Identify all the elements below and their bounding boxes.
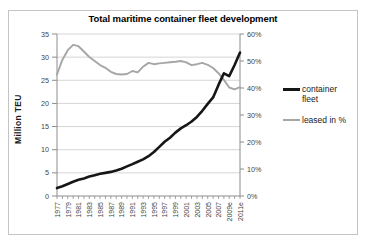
x-axis-tick-label: 1995: [151, 202, 158, 218]
x-axis-tick-label: 1989: [118, 202, 125, 218]
container-fleet-line-swatch: [283, 88, 300, 91]
y2-axis-tick-label: 0%: [247, 192, 258, 201]
y2-axis-tick-label: 30%: [247, 111, 262, 120]
chart-canvas: Total maritime container fleet developme…: [0, 0, 368, 245]
y-axis-tick-label: 35: [41, 30, 49, 39]
y2-axis-tick-label: 50%: [247, 57, 262, 66]
y2-axis-tick-label: 10%: [247, 165, 262, 174]
legend-item-container-fleet: container fleet: [283, 84, 353, 104]
x-axis-tick-label: 1993: [140, 202, 147, 218]
y-axis-tick-label: 30: [41, 53, 49, 62]
y-axis-tick-label: 5: [45, 168, 49, 177]
x-axis-tick-label: 1991: [129, 202, 136, 218]
legend-item-leased-in-pct: leased in %: [283, 115, 353, 125]
x-axis-tick-label: 1999: [172, 202, 179, 218]
x-axis-tick-label: 1981: [75, 202, 82, 218]
x-axis-tick-label: 1985: [97, 202, 104, 218]
x-axis-tick-label: 1987: [108, 202, 115, 218]
y-axis-tick-label: 0: [45, 192, 49, 201]
y-axis-tick-label: 15: [41, 122, 49, 131]
y-axis-tick-label: 20: [41, 99, 49, 108]
series-line-container-fleet: [57, 53, 240, 189]
legend-label-leased-in-pct: leased in %: [302, 115, 346, 125]
x-axis-tick-label: 2009e: [226, 202, 233, 222]
legend-label-container-fleet: container fleet: [302, 84, 352, 104]
x-axis-tick-label: 2005: [205, 202, 212, 218]
x-axis-tick-label: 2007: [215, 202, 222, 218]
x-axis-tick-label: 2011e: [237, 202, 244, 221]
x-axis-tick-label: 2003: [194, 202, 201, 218]
x-axis-tick-label: 1979: [65, 202, 72, 218]
x-axis-tick-label: 1983: [86, 202, 93, 218]
y-axis-tick-label: 25: [41, 76, 49, 85]
legend: container fleet leased in %: [283, 84, 353, 126]
y2-axis-tick-label: 40%: [247, 84, 262, 93]
leased-in-pct-line-swatch: [283, 119, 300, 121]
y-axis-tick-label: 10: [41, 145, 49, 154]
x-axis-tick-label: 1997: [161, 202, 168, 218]
x-axis-tick-label: 2001: [183, 202, 190, 218]
y2-axis-tick-label: 60%: [247, 30, 262, 39]
x-axis-tick-label: 1977: [54, 202, 61, 218]
series-line-leased-in-: [57, 45, 240, 90]
y2-axis-tick-label: 20%: [247, 138, 262, 147]
